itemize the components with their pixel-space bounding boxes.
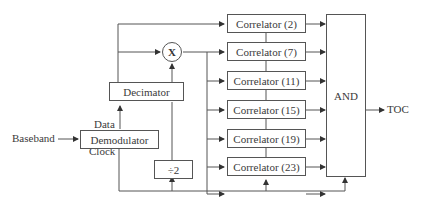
decimator-block: Decimator [109, 82, 184, 101]
correlator-11-block: Correlator (11) [227, 71, 306, 90]
correlator-2-block: Correlator (2) [227, 14, 306, 33]
correlator-19-block: Correlator (19) [227, 129, 306, 148]
correlator-7-block: Correlator (7) [227, 42, 306, 61]
correlator-15-block: Correlator (15) [227, 100, 306, 119]
divide-by-two-block: ÷2 [154, 160, 193, 179]
data-port-label: Data [94, 118, 115, 130]
correlator-23-block: Correlator (23) [227, 157, 306, 176]
and-gate-block: AND [326, 14, 366, 177]
multiplier-node: X [162, 42, 182, 62]
toc-output-label: TOC [387, 103, 409, 115]
demodulator-block: Demodulator [80, 130, 159, 149]
baseband-input-label: Baseband [12, 132, 55, 144]
